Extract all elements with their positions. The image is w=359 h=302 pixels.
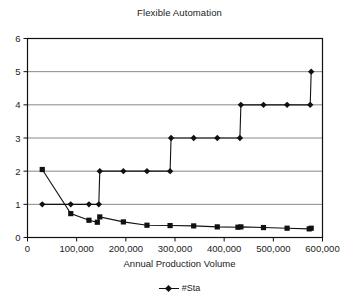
y-tick-label: 3: [15, 133, 20, 144]
y-tick-label: 4: [15, 99, 20, 110]
data-point-square: [121, 219, 126, 224]
data-point-square: [167, 223, 172, 228]
chart-plot-area: 0123456 0100,000200,000300,000400,000500…: [0, 0, 359, 302]
x-axis-ticks: [28, 238, 323, 242]
data-point-square: [40, 167, 45, 172]
y-tick-label: 5: [15, 66, 20, 77]
data-series-layer: [39, 68, 314, 231]
y-tick-label: 2: [15, 166, 20, 177]
data-point-square: [309, 226, 314, 231]
y-tick-label: 6: [15, 33, 20, 44]
data-point-square: [191, 223, 196, 228]
data-point-square: [261, 225, 266, 230]
data-point-square: [144, 223, 149, 228]
x-tick-label: 0: [25, 243, 30, 254]
data-point-diamond: [284, 102, 290, 108]
x-tick-label: 400,000: [207, 243, 241, 254]
x-tick-label: 300,000: [158, 243, 192, 254]
data-point-square: [238, 224, 243, 229]
data-point-diamond: [68, 201, 74, 207]
legend-entry-label: #Sta: [182, 284, 201, 293]
data-point-square: [95, 220, 100, 225]
series-series-2: [40, 167, 314, 232]
data-point-diamond: [307, 102, 313, 108]
series-line: [42, 170, 311, 229]
data-point-diamond: [214, 135, 220, 141]
data-point-diamond: [120, 168, 126, 174]
x-tick-label: 200,000: [109, 243, 143, 254]
chart-container: Flexible Automation 0123456 0100,000200,…: [0, 0, 359, 302]
data-point-diamond: [260, 102, 266, 108]
x-tick-label: 600,000: [305, 243, 339, 254]
chart-legend: #Sta: [0, 284, 359, 293]
data-point-square: [86, 218, 91, 223]
data-point-square: [97, 214, 102, 219]
data-point-diamond: [144, 168, 150, 174]
data-point-diamond: [39, 201, 45, 207]
data-point-diamond: [167, 168, 173, 174]
data-point-diamond: [190, 135, 196, 141]
y-tick-label: 0: [15, 232, 20, 243]
data-point-square: [285, 226, 290, 231]
data-point-diamond: [308, 68, 314, 74]
x-tick-label: 500,000: [256, 243, 290, 254]
y-axis-tick-labels: 0123456: [15, 33, 20, 243]
x-axis-tick-labels: 0100,000200,000300,000400,000500,000600,…: [25, 243, 340, 254]
data-point-diamond: [97, 168, 103, 174]
x-tick-label: 100,000: [59, 243, 93, 254]
data-point-diamond: [96, 201, 102, 207]
data-point-diamond: [168, 135, 174, 141]
legend-marker-diamond-icon: [159, 285, 179, 292]
data-point-diamond: [237, 135, 243, 141]
data-point-diamond: [238, 102, 244, 108]
x-axis-title: Annual Production Volume: [0, 258, 359, 269]
data-point-square: [68, 211, 73, 216]
data-point-square: [215, 224, 220, 229]
data-point-diamond: [86, 201, 92, 207]
y-tick-label: 1: [15, 199, 20, 210]
